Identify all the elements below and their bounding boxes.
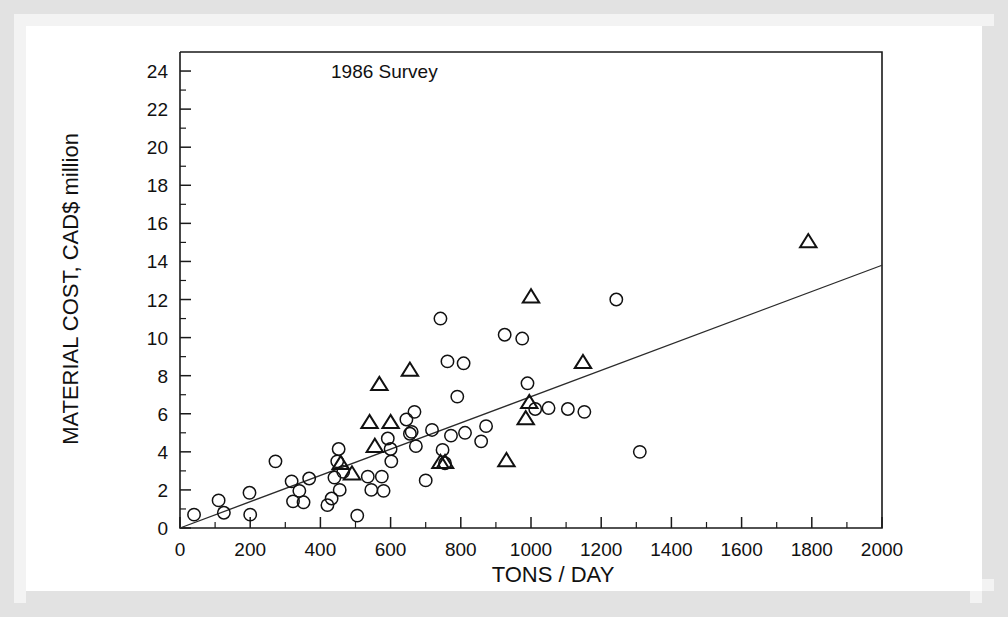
y-axis-tick-labels: 024681012141618202224 <box>147 61 169 539</box>
y-tick-label: 18 <box>147 175 168 196</box>
x-axis-tick-labels: 0200400600800100012001400160018002000 <box>175 539 903 560</box>
data-point-circle <box>377 485 389 497</box>
data-point-triangle <box>402 363 418 376</box>
data-point-circle <box>334 484 346 496</box>
border-band-right <box>982 0 1008 617</box>
border-inner-shade-top <box>14 14 994 26</box>
data-point-circle <box>516 332 528 344</box>
data-series-circles <box>188 293 646 522</box>
x-tick-label: 0 <box>175 539 186 560</box>
x-tick-label: 800 <box>445 539 477 560</box>
data-point-triangle <box>523 289 539 302</box>
y-tick-label: 8 <box>157 366 168 387</box>
y-tick-label: 0 <box>157 518 168 539</box>
x-tick-label: 200 <box>234 539 266 560</box>
y-tick-label: 4 <box>157 442 168 463</box>
data-point-circle <box>436 444 448 456</box>
x-axis-title: TONS / DAY <box>492 562 615 587</box>
x-tick-label: 1400 <box>650 539 692 560</box>
plot-canvas: 0200400600800100012001400160018002000 02… <box>26 26 982 591</box>
y-tick-label: 2 <box>157 480 168 501</box>
data-point-circle <box>420 474 432 486</box>
x-tick-label: 400 <box>305 539 337 560</box>
data-point-circle <box>498 329 510 341</box>
data-point-circle <box>410 440 422 452</box>
data-point-circle <box>480 420 492 432</box>
data-point-circle <box>441 355 453 367</box>
data-point-circle <box>562 403 574 415</box>
y-tick-label: 14 <box>147 251 169 272</box>
border-inner-shade-left <box>14 14 26 603</box>
x-tick-label: 2000 <box>861 539 903 560</box>
y-tick-label: 6 <box>157 404 168 425</box>
data-point-circle <box>451 390 463 402</box>
data-point-circle <box>376 470 388 482</box>
data-point-circle <box>542 402 554 414</box>
data-point-circle <box>610 293 622 305</box>
data-point-circle <box>243 487 255 499</box>
x-tick-label: 1000 <box>510 539 552 560</box>
data-point-circle <box>293 485 305 497</box>
border-band-bottom <box>0 591 1008 617</box>
data-point-triangle <box>367 439 383 452</box>
data-series-triangles <box>333 234 817 479</box>
x-tick-label: 1800 <box>791 539 833 560</box>
data-point-circle <box>332 443 344 455</box>
data-point-triangle <box>498 453 514 466</box>
y-tick-label: 20 <box>147 137 168 158</box>
data-point-triangle <box>382 415 398 428</box>
y-tick-label: 22 <box>147 99 168 120</box>
data-point-circle <box>328 471 340 483</box>
data-point-circle <box>459 427 471 439</box>
data-point-triangle <box>361 415 377 428</box>
y-tick-label: 10 <box>147 328 168 349</box>
data-point-circle <box>400 413 412 425</box>
data-point-circle <box>269 455 281 467</box>
scatter-chart: 0200400600800100012001400160018002000 02… <box>26 26 982 591</box>
y-axis-title: MATERIAL COST, CAD$ million <box>58 133 83 445</box>
y-axis-ticks <box>180 71 191 528</box>
figure-frame: 0200400600800100012001400160018002000 02… <box>0 0 1008 617</box>
data-point-circle <box>408 406 420 418</box>
x-tick-label: 600 <box>375 539 407 560</box>
data-point-circle <box>212 494 224 506</box>
data-point-circle <box>578 406 590 418</box>
data-point-circle <box>457 357 469 369</box>
data-point-circle <box>362 470 374 482</box>
y-tick-label: 16 <box>147 213 168 234</box>
x-tick-label: 1200 <box>580 539 622 560</box>
data-point-circle <box>351 509 363 521</box>
data-point-circle <box>634 446 646 458</box>
data-point-circle <box>475 435 487 447</box>
chart-annotation-label: 1986 Survey <box>331 61 438 82</box>
data-point-triangle <box>575 355 591 368</box>
data-point-circle <box>365 484 377 496</box>
data-point-triangle <box>800 234 816 247</box>
x-tick-label: 1600 <box>720 539 762 560</box>
data-point-circle <box>521 377 533 389</box>
data-point-circle <box>434 312 446 324</box>
data-point-triangle <box>371 377 387 390</box>
y-tick-label: 12 <box>147 290 168 311</box>
data-point-circle <box>385 455 397 467</box>
data-point-circle <box>445 429 457 441</box>
x-axis-ticks <box>180 517 882 528</box>
y-tick-label: 24 <box>147 61 169 82</box>
data-point-circle <box>188 508 200 520</box>
